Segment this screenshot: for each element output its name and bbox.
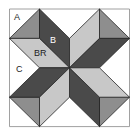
label-a: A: [14, 12, 20, 22]
label-b: B: [50, 35, 56, 45]
label-c: C: [16, 64, 23, 74]
label-br: BR: [34, 48, 47, 58]
